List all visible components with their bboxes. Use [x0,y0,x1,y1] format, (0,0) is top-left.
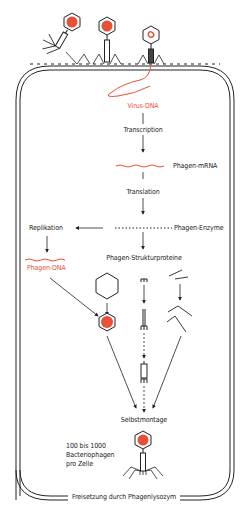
capsid-hexagon-icon [96,273,118,299]
bacteriophage-icon [123,431,163,479]
tail-fiber-icon [169,270,188,279]
arrow-icon [107,336,136,408]
yield-label-line1: 100 bis 1000 [66,443,106,450]
dna-strand-icon [25,259,65,261]
virus-dna-label: Virus-DNA [127,103,158,110]
selbstmontage-label: Selbstmontage [121,417,167,424]
arrow-icon [50,278,98,316]
tail-tube-icon [141,279,147,282]
tail-tube-icon [141,361,147,383]
phagen-enzyme-label: Phagen-Enzyme [174,225,224,232]
tail-fiber-icon [167,306,192,332]
mrna-wave-icon [116,165,164,167]
yield-label-line2: Bacteriophagen [66,452,115,459]
bacteriophage-icon [138,26,164,64]
arrow-icon [153,336,181,408]
replikation-label: Replikation [29,225,63,232]
transcription-label: Transcription [123,127,162,134]
freisetzung-label: Freisetzung durch Phagenlysozym [70,494,178,501]
phagen-strukturproteine-label: Phagen-Strukturproteine [106,255,181,262]
capsid-hexagon-icon [99,313,115,331]
bacteriophage-icon [38,13,90,64]
yield-label-line3: pro Zelle [66,461,93,468]
dna-strand-icon [108,64,151,97]
bacteriophage-icon [93,17,121,64]
translation-label: Translation [126,189,159,196]
tail-tube-icon [141,309,147,330]
phagen-dna-label: Phagen-DNA [27,265,66,272]
phagen-mrna-label: Phagen-mRNA [173,163,217,170]
